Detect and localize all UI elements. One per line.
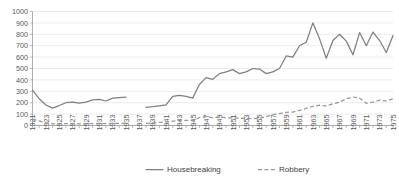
y-tick-label: 700 (16, 41, 28, 50)
x-tick-label: 1967 (335, 115, 344, 131)
x-tick-label: 1959 (282, 115, 291, 131)
y-tick-label: 100 (16, 110, 28, 119)
x-tick-label: 1941 (162, 115, 171, 131)
x-tick-label: 1931 (95, 115, 104, 131)
x-tick-label: 1953 (242, 115, 251, 131)
y-tick-label: 200 (16, 98, 28, 107)
chart-canvas: 01002003004005006007008009001000 1921192… (0, 0, 399, 179)
x-tick-label: 1925 (55, 115, 64, 131)
data-series (33, 23, 394, 124)
legend-label-housebreaking: Housebreaking (167, 165, 221, 174)
x-axis: 1921192319251927192919311933193519371939… (28, 115, 398, 131)
x-tick-label: 1927 (68, 115, 77, 131)
line-chart: 01002003004005006007008009001000 1921192… (0, 0, 399, 179)
x-tick-label: 1945 (189, 115, 198, 131)
x-tick-label: 1935 (122, 115, 131, 131)
x-tick-label: 1943 (175, 115, 184, 131)
y-tick-label: 500 (16, 64, 28, 73)
x-tick-label: 1933 (108, 115, 117, 131)
x-tick-label: 1937 (135, 115, 144, 131)
y-tick-label: 800 (16, 30, 28, 39)
y-tick-label: 300 (16, 87, 28, 96)
legend-label-robbery: Robbery (279, 165, 309, 174)
y-tick-label: 400 (16, 76, 28, 85)
x-tick-label: 1971 (362, 115, 371, 131)
series-line-housebreaking (146, 23, 393, 107)
x-tick-label: 1973 (375, 115, 384, 131)
x-tick-label: 1969 (349, 115, 358, 131)
x-tick-label: 1957 (269, 115, 278, 131)
x-tick-label: 1929 (82, 115, 91, 131)
x-tick-label: 1921 (28, 115, 37, 131)
x-tick-label: 1965 (322, 115, 331, 131)
chart-legend: HousebreakingRobbery (146, 165, 309, 174)
x-tick-label: 1951 (229, 115, 238, 131)
y-tick-label: 900 (16, 19, 28, 28)
y-axis: 01002003004005006007008009001000 (12, 7, 33, 130)
y-tick-label: 1000 (12, 7, 28, 16)
gridlines (33, 12, 394, 126)
x-tick-label: 1963 (309, 115, 318, 131)
x-tick-label: 1961 (295, 115, 304, 131)
y-tick-label: 600 (16, 53, 28, 62)
series-line-housebreaking (33, 90, 126, 108)
x-tick-label: 1975 (389, 115, 398, 131)
